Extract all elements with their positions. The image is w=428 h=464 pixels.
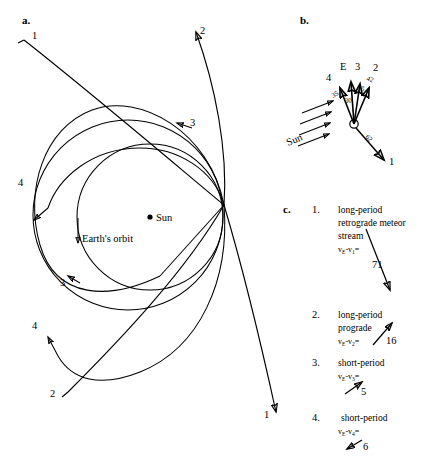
svg-text:vE-v3=: vE-v3= xyxy=(338,372,360,382)
legend-item-2-number: 2. xyxy=(312,309,320,320)
earths-orbit-label: Earth's orbit xyxy=(82,233,133,244)
label-trajectory-2-top: 2 xyxy=(200,25,205,36)
f4-equals: = xyxy=(355,427,360,436)
legend-item-3-number: 3. xyxy=(312,357,320,368)
label-vector-3: 3 xyxy=(355,61,360,72)
trajectory-3-arrowhead-lower xyxy=(68,276,80,283)
speed-value-42: 42 xyxy=(365,74,375,84)
label-trajectory-1-bottom: 1 xyxy=(264,409,269,420)
panel-b: b. 2 3 4 E 1 42 35 30 35 xyxy=(285,14,395,167)
legend-item-2-line-1: long-period xyxy=(338,310,383,320)
label-earth-E: E xyxy=(340,61,346,72)
legend-item-3-formula: vE-v3= xyxy=(338,372,360,382)
legend-item-1-number: 1. xyxy=(312,204,320,215)
legend-item-2-line-2: prograde xyxy=(338,323,372,333)
trajectory-4-arrowhead-lower xyxy=(48,337,58,356)
sun-ray-3 xyxy=(299,123,330,135)
label-trajectory-1-top: 1 xyxy=(32,30,37,41)
label-trajectory-4-lower-left: 4 xyxy=(32,320,38,331)
f1-equals: = xyxy=(355,245,360,254)
legend-item-1-line-2: retrograde meteor xyxy=(338,218,407,228)
legend-item-2-value: 16 xyxy=(386,335,397,346)
panel-c: c. 1. long-period retrograde meteor stre… xyxy=(283,203,407,452)
label-vector-4: 4 xyxy=(326,72,332,83)
legend-item-1-value: 71 xyxy=(372,259,383,270)
legend-item-3-arrow xyxy=(345,382,362,394)
legend-item-4-line-1: short-period xyxy=(341,413,388,423)
legend-item-3-line-1: short-period xyxy=(338,358,385,368)
label-trajectory-3-lower-left: 3 xyxy=(60,277,65,288)
label-vector-1: 1 xyxy=(389,156,394,167)
trajectory-2-tail xyxy=(62,392,68,397)
speed-value-62: 62 xyxy=(364,133,375,144)
svg-text:vE-v4=: vE-v4= xyxy=(338,427,360,437)
trajectory-1-outgoing xyxy=(224,205,276,412)
legend-item-1-formula: vE-v1= xyxy=(338,245,360,255)
label-vector-2: 2 xyxy=(373,62,378,73)
speed-value-35-right: 35 xyxy=(357,84,366,93)
sun-label: Sun xyxy=(156,212,173,223)
legend-item-4-number: 4. xyxy=(312,412,320,423)
speed-value-30: 30 xyxy=(344,96,352,105)
svg-text:vE-v2=: vE-v2= xyxy=(338,337,360,347)
legend-item-2-formula: vE-v2= xyxy=(338,337,360,347)
panel-b-letter: b. xyxy=(300,14,309,26)
speed-value-35-left: 35 xyxy=(330,89,340,100)
panel-a: a. 1 2 3 4 3 4 2 1 Sun Earth's orbit xyxy=(18,14,276,420)
label-trajectory-4-left: 4 xyxy=(18,177,24,188)
panel-c-letter: c. xyxy=(283,203,291,215)
sun-marker xyxy=(147,214,152,219)
legend-item-1-line-1: long-period xyxy=(338,205,383,215)
f3-equals: = xyxy=(355,372,360,381)
svg-text:vE-v1=: vE-v1= xyxy=(338,245,360,255)
f2-equals: = xyxy=(355,337,360,346)
trajectory-3-arc xyxy=(35,106,224,292)
trajectory-4-arrowhead-upper xyxy=(34,208,48,220)
panel-a-letter: a. xyxy=(22,14,31,26)
legend-item-1-line-3: stream xyxy=(338,231,364,241)
legend-item-4-arrow xyxy=(347,440,362,449)
legend-item-3-value: 5 xyxy=(361,386,366,397)
legend-item-4-formula: vE-v4= xyxy=(338,427,360,437)
trajectory-1-tail xyxy=(18,40,24,43)
label-trajectory-3-right: 3 xyxy=(190,117,195,128)
figure-svg: a. 1 2 3 4 3 4 2 1 Sun Earth's orbit b. xyxy=(0,0,428,464)
sun-ray-1 xyxy=(302,101,333,113)
sun-ray-2 xyxy=(300,112,331,124)
trajectory-4-arc-upper xyxy=(48,148,224,208)
label-trajectory-2-bottom-left: 2 xyxy=(50,388,55,399)
legend-item-4-value: 6 xyxy=(363,441,368,452)
figure-root: a. 1 2 3 4 3 4 2 1 Sun Earth's orbit b. xyxy=(0,0,428,464)
